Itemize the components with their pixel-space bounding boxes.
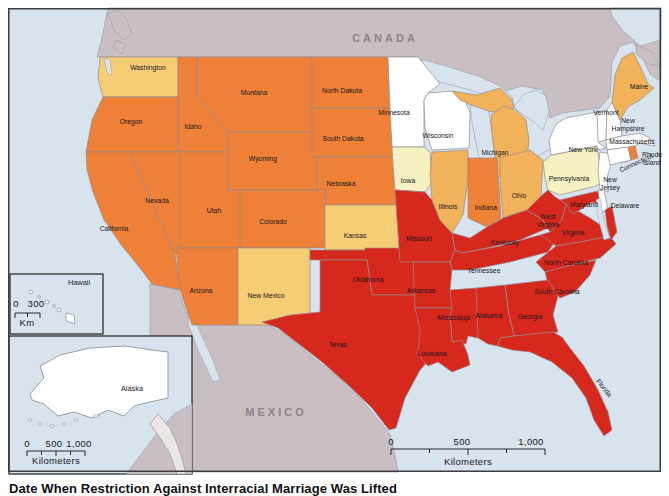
- hawaii-island: [38, 296, 41, 299]
- hawaii-inset: [10, 274, 103, 334]
- state-south-dakota: [312, 108, 393, 157]
- state-iowa: [392, 147, 432, 192]
- aleutian-island: [50, 425, 54, 427]
- state-colorado: [240, 190, 325, 248]
- hawaii-inset-frame: [10, 274, 103, 334]
- state-indiana: [468, 158, 501, 227]
- hawaii-island: [53, 305, 56, 308]
- hawaii-island: [57, 308, 61, 312]
- state-arkansas: [413, 262, 452, 308]
- hawaii-island: [29, 290, 33, 294]
- alaska-inset: [9, 336, 192, 474]
- kodiak-island: [94, 415, 99, 418]
- state-north-dakota: [312, 57, 390, 108]
- state-wyoming: [228, 132, 317, 190]
- state-new-mexico: [238, 248, 310, 325]
- aleutian-island: [62, 423, 66, 425]
- aleutian-island: [74, 419, 78, 421]
- figure-caption: Date When Restriction Against Interracia…: [9, 481, 397, 496]
- state-vermont: [597, 110, 607, 142]
- state-mississippi: [450, 288, 478, 344]
- aleutian-island: [38, 423, 42, 425]
- hawaii-island: [45, 300, 49, 304]
- aleutian-island: [28, 419, 32, 421]
- state-oregon: [86, 97, 178, 152]
- state-georgia: [505, 280, 558, 336]
